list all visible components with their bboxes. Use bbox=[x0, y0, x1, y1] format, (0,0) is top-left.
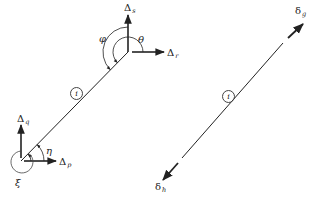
end-s-arrows bbox=[103, 15, 164, 70]
phi-label: φ bbox=[99, 34, 106, 44]
delta-g-label: δg bbox=[295, 6, 306, 18]
delta-s-label: Δs bbox=[124, 3, 136, 15]
delta-h-label: δh bbox=[155, 182, 166, 194]
xi-label: ξ bbox=[15, 178, 21, 188]
delta-q-label: Δq bbox=[17, 114, 29, 126]
member-i-label-left: i bbox=[70, 87, 83, 100]
theta-label: θ bbox=[138, 35, 144, 45]
eta-arc-icon bbox=[37, 145, 44, 161]
right-member bbox=[163, 24, 303, 180]
delta-p-label: Δp bbox=[59, 157, 71, 169]
phi-arc-icon bbox=[103, 27, 128, 70]
member-i-label-right: i bbox=[222, 90, 235, 103]
delta-h-arrow-icon bbox=[163, 163, 178, 180]
delta-g-arrow-icon bbox=[288, 24, 303, 38]
eta-label: η bbox=[46, 146, 52, 156]
delta-r-label: Δr bbox=[167, 48, 178, 60]
xi-rotation-icon bbox=[11, 151, 33, 173]
member-line bbox=[21, 52, 128, 161]
diagram-canvas bbox=[0, 0, 322, 199]
left-member bbox=[21, 52, 128, 161]
